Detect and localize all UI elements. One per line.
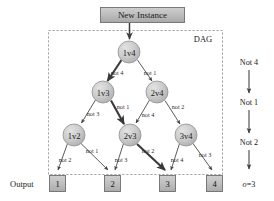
edge-label-3v4-out3: not 4 bbox=[171, 156, 184, 163]
edge-label-1v4-1v3: not 4 bbox=[111, 69, 124, 76]
output-box-3-label: 3 bbox=[165, 179, 169, 189]
output-box-1-label: 1 bbox=[55, 179, 59, 189]
edge-label-1v3-2v3: not 1 bbox=[117, 103, 130, 110]
edge-label-2v4-2v3: not 4 bbox=[142, 111, 155, 118]
dag-node-3v4-label: 3v4 bbox=[180, 131, 194, 141]
dag-node-2v4[interactable]: 2v4 bbox=[146, 81, 168, 103]
output-box-2-label: 2 bbox=[110, 179, 114, 189]
edge-label-2v3-out3: not 2 bbox=[142, 147, 155, 154]
output-box-1[interactable]: 1 bbox=[50, 176, 66, 192]
edge-label-1v2-out2: not 1 bbox=[86, 147, 99, 154]
edge-label-3v4-out4: not 3 bbox=[199, 151, 212, 158]
dag-node-3v4[interactable]: 3v4 bbox=[175, 124, 197, 146]
edge-label-1v3-1v2: not 3 bbox=[87, 110, 100, 117]
sequence-step-2: Not 1 bbox=[240, 98, 258, 107]
dag-node-1v2-label: 1v2 bbox=[68, 131, 81, 141]
output-box-3[interactable]: 3 bbox=[160, 176, 176, 192]
dag-region-label: DAG bbox=[194, 34, 212, 44]
output-box-2[interactable]: 2 bbox=[105, 176, 121, 192]
edge-label-1v2-out1: not 2 bbox=[59, 156, 72, 163]
sequence-step-3: Not 2 bbox=[240, 138, 258, 147]
dag-node-2v3-label: 2v3 bbox=[124, 131, 137, 141]
dag-node-2v4-label: 2v4 bbox=[151, 88, 165, 98]
dag-node-1v2[interactable]: 1v2 bbox=[63, 124, 85, 146]
new-instance-label: New Instance bbox=[118, 10, 167, 20]
dag-node-2v3[interactable]: 2v3 bbox=[119, 124, 141, 146]
edge-label-2v3-out2: not 3 bbox=[115, 156, 128, 163]
sequence-result: o=3 bbox=[243, 180, 256, 189]
dag-node-1v3[interactable]: 1v3 bbox=[92, 81, 114, 103]
edge-label-1v4-2v4: not 1 bbox=[144, 69, 157, 76]
dag-node-1v4[interactable]: 1v4 bbox=[118, 41, 140, 63]
output-box-4[interactable]: 4 bbox=[207, 176, 223, 192]
edge-label-2v4-3v4: not 2 bbox=[172, 103, 185, 110]
figure-canvas: DAG New Instance not 4 not 1 not 3 not 1… bbox=[0, 0, 274, 201]
sequence-step-1: Not 4 bbox=[240, 58, 258, 67]
dag-node-1v3-label: 1v3 bbox=[97, 88, 110, 98]
output-label: Output bbox=[10, 179, 34, 189]
sequence-result-value: =3 bbox=[247, 180, 256, 189]
dag-node-1v4-label: 1v4 bbox=[123, 48, 137, 58]
